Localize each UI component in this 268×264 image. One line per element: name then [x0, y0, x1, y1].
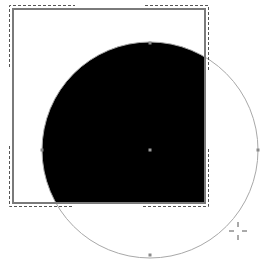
selection-corner-top-left[interactable]	[10, 6, 76, 68]
anchor-point-top[interactable]	[149, 42, 152, 45]
anchor-point-bottom[interactable]	[149, 254, 152, 257]
crosshair-cursor-icon	[229, 222, 247, 240]
anchor-point-right[interactable]	[257, 149, 260, 152]
anchor-point-left[interactable]	[41, 149, 44, 152]
anchor-point-center[interactable]	[149, 149, 152, 152]
drawing-canvas[interactable]	[0, 0, 268, 264]
